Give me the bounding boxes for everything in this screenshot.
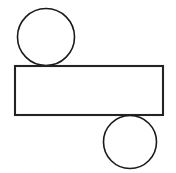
- figure-canvas: [0, 0, 176, 173]
- canvas-background: [0, 0, 176, 173]
- geometric-figure-svg: [0, 0, 176, 173]
